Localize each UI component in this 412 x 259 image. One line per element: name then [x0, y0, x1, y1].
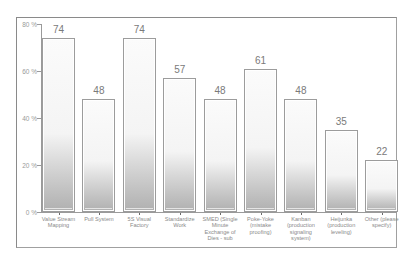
bar-value-label: 22 — [362, 146, 402, 157]
x-axis-category-label: 5S Visual Factory — [119, 216, 159, 229]
y-axis-tick-label: 20 % — [22, 162, 37, 169]
x-axis-category-label: Other (please specify) — [362, 216, 402, 229]
y-axis-tick-label: 40 % — [22, 115, 37, 122]
x-axis — [41, 212, 397, 213]
y-axis-tick-label: 60 % — [22, 68, 37, 75]
bar[interactable] — [82, 99, 115, 212]
bar[interactable] — [42, 38, 75, 212]
bar[interactable] — [365, 160, 398, 212]
x-axis-category-label: Pull System — [79, 216, 119, 222]
x-axis-category-label: Heijunka (production leveling) — [321, 216, 361, 235]
bar[interactable] — [244, 69, 277, 212]
x-axis-category-label: Poke-Yoke (mistake proofing) — [241, 216, 281, 235]
y-axis — [41, 24, 42, 213]
x-axis-category-label: SMED (Single Minute Exchange of Dies - s… — [200, 216, 240, 242]
bar-value-label: 35 — [321, 116, 361, 127]
bar-value-label: 74 — [119, 24, 159, 35]
x-axis-category-label: Value Stream Mapping — [39, 216, 79, 229]
bar[interactable] — [325, 130, 358, 212]
x-axis-category-label: Kanban (production signaling system) — [281, 216, 321, 242]
bar[interactable] — [284, 99, 317, 212]
y-axis-tick-label: 80 % — [22, 21, 37, 28]
bar-value-label: 48 — [200, 85, 240, 96]
bar-value-label: 48 — [281, 85, 321, 96]
bar-value-label: 48 — [79, 85, 119, 96]
bar-value-label: 61 — [241, 55, 281, 66]
bar-value-label: 57 — [160, 64, 200, 75]
bar[interactable] — [163, 78, 196, 212]
bar[interactable] — [123, 38, 156, 212]
y-axis-tick-label: 0 % — [26, 209, 37, 216]
bar-value-label: 74 — [39, 24, 79, 35]
x-axis-category-label: Standardize Work — [160, 216, 200, 229]
bar[interactable] — [204, 99, 237, 212]
